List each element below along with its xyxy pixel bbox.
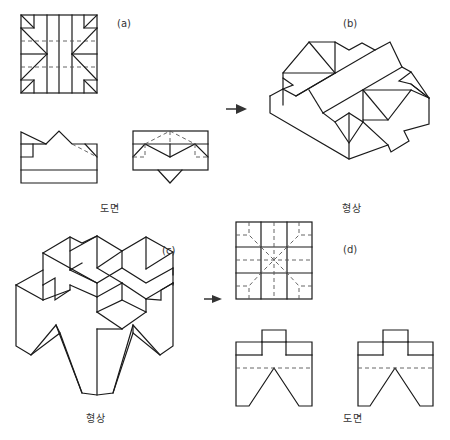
figure-a-plan-view (21, 15, 97, 93)
drawing-canvas (0, 0, 450, 440)
figure-c-caption: 형상 (86, 410, 105, 425)
figure-d-side-view (358, 330, 433, 406)
arrow-right-icon (226, 104, 247, 114)
figure-a-front-view (21, 131, 97, 183)
figure-d-plan-view (236, 222, 312, 299)
figure-b-label: (b) (343, 18, 357, 29)
figure-b-isometric-shape (270, 42, 429, 159)
arrow-right-icon (204, 295, 222, 303)
figure-b-caption: 형상 (342, 200, 361, 215)
figure-a-label: (a) (117, 18, 131, 29)
figure-a-caption: 도면 (100, 200, 119, 215)
figure-c-label: (c) (162, 245, 175, 256)
figure-d-label: (d) (343, 244, 357, 255)
figure-a-side-view (133, 131, 208, 183)
figure-d-front-view (236, 330, 312, 406)
figure-c-isometric-shape (16, 236, 173, 395)
figure-d-caption: 도면 (343, 410, 362, 425)
